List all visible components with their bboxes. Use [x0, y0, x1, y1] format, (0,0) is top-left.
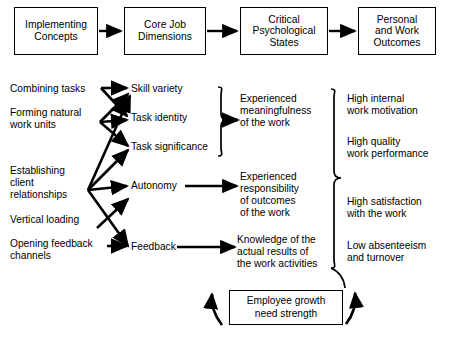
arrow-forming-work-units-to-task-significance	[100, 122, 128, 146]
header-box-core-job-dimensions: Core Job Dimensions	[124, 7, 206, 55]
arrow-combining-tasks-to-task-identity	[101, 88, 127, 116]
core-job-dimension-task-significance: Task significance	[131, 141, 223, 153]
job-characteristics-model-diagram: Implementing Concepts Core Job Dimension…	[0, 0, 450, 338]
header-box-critical-psychological-states: Critical Psychological States	[240, 7, 328, 55]
outcome-low-absenteeism-and-turnover: Low absenteeism and turnover	[347, 240, 449, 264]
outcome-high-satisfaction-with-the-work: High satisfaction with the work	[347, 196, 447, 220]
implementing-concept-opening-feedback-channels: Opening feedback channels	[10, 238, 110, 262]
arrow-client-relationships-to-autonomy	[88, 186, 127, 190]
core-job-dimension-feedback: Feedback	[131, 241, 219, 253]
core-job-dimension-skill-variety: Skill variety	[131, 83, 219, 95]
loop-connector-outcomes-to-growth-box	[331, 268, 345, 288]
psychological-state-knowledge-of-results: Knowledge of the actual results of the w…	[237, 234, 337, 270]
arrow-forming-work-units-to-skill-variety	[100, 94, 128, 122]
arrow-growth-need-to-outcomes	[346, 293, 355, 324]
implementing-concept-combining-tasks: Combining tasks	[10, 83, 102, 95]
psychological-state-experienced-responsibility: Experienced responsibility of outcomes o…	[240, 171, 334, 219]
implementing-concept-forming-natural-work-units: Forming natural work units	[10, 107, 102, 131]
implementing-concept-establishing-client-relationships: Establishing client relationships	[10, 165, 90, 201]
psychological-state-experienced-meaningfulness: Experienced meaningfulness of the work	[240, 93, 334, 129]
moderator-box-employee-growth-need-strength: Employee growth need strength	[229, 290, 343, 325]
arrow-forming-work-units-to-task-identity	[100, 120, 127, 122]
arrow-client-relationships-to-task-significance	[88, 150, 128, 190]
outcome-high-internal-work-motivation: High internal work motivation	[347, 93, 447, 117]
header-box-personal-and-work-outcomes: Personal and Work Outcomes	[358, 7, 436, 55]
implementing-concept-vertical-loading: Vertical loading	[10, 214, 102, 226]
core-job-dimension-autonomy: Autonomy	[131, 180, 219, 192]
arrow-growth-need-to-core-dimensions	[212, 294, 222, 325]
header-box-implementing-concepts: Implementing Concepts	[14, 7, 98, 55]
outcome-high-quality-work-performance: High quality work performance	[347, 136, 449, 160]
core-job-dimension-task-identity: Task identity	[131, 112, 219, 124]
